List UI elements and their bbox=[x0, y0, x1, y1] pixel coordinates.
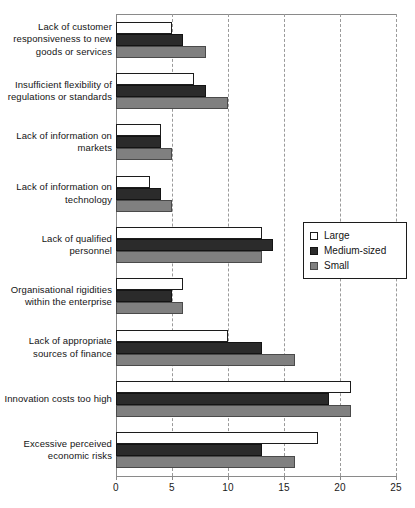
bar-medium bbox=[116, 393, 329, 405]
bar-large bbox=[116, 124, 161, 136]
bar-medium bbox=[116, 342, 262, 354]
tick-0 bbox=[116, 476, 117, 480]
legend-label: Large bbox=[324, 230, 350, 241]
bar-small bbox=[116, 302, 183, 314]
legend-swatch-small-icon bbox=[310, 262, 318, 270]
legend-item-large[interactable]: Large bbox=[310, 228, 400, 243]
legend-item-medium[interactable]: Medium-sized bbox=[310, 243, 400, 258]
bar-group bbox=[116, 176, 396, 212]
tick-15 bbox=[284, 476, 285, 480]
bar-large bbox=[116, 73, 194, 85]
category-label: Organisational rigidities within the ent… bbox=[2, 284, 112, 309]
legend-swatch-medium-icon bbox=[310, 247, 318, 255]
bar-large bbox=[116, 176, 150, 188]
bar-group bbox=[116, 330, 396, 366]
category-label: Insufficient flexibility of regulations … bbox=[2, 79, 112, 104]
tick-20 bbox=[340, 476, 341, 480]
category-label: Lack of appropriate sources of finance bbox=[2, 335, 112, 360]
bar-group bbox=[116, 381, 396, 417]
legend-swatch-large-icon bbox=[310, 232, 318, 240]
chart-legend[interactable]: LargeMedium-sizedSmall bbox=[303, 222, 407, 279]
bar-medium bbox=[116, 136, 161, 148]
x-tick-label: 25 bbox=[390, 482, 402, 493]
category-label: Lack of information on technology bbox=[2, 181, 112, 206]
bar-medium bbox=[116, 188, 161, 200]
bar-group bbox=[116, 22, 396, 58]
bar-medium bbox=[116, 85, 206, 97]
bar-small bbox=[116, 97, 228, 109]
x-tick-label: 15 bbox=[278, 482, 290, 493]
bar-large bbox=[116, 381, 351, 393]
bar-medium bbox=[116, 290, 172, 302]
bar-small bbox=[116, 405, 351, 417]
tick-25 bbox=[396, 476, 397, 480]
bar-medium bbox=[116, 444, 262, 456]
tick-5 bbox=[172, 476, 173, 480]
x-axis-line bbox=[116, 476, 397, 477]
bar-medium bbox=[116, 239, 273, 251]
bar-small bbox=[116, 200, 172, 212]
bar-large bbox=[116, 227, 262, 239]
bar-chart: 0510152025 Lack of customer responsivene… bbox=[0, 0, 415, 508]
bar-group bbox=[116, 432, 396, 468]
x-tick-label: 5 bbox=[169, 482, 175, 493]
category-label: Lack of information on markets bbox=[2, 130, 112, 155]
bar-small bbox=[116, 46, 206, 58]
category-label: Innovation costs too high bbox=[2, 393, 112, 406]
bar-large bbox=[116, 432, 318, 444]
legend-label: Small bbox=[324, 260, 349, 271]
bar-small bbox=[116, 354, 295, 366]
bar-group bbox=[116, 124, 396, 160]
bar-large bbox=[116, 330, 228, 342]
category-label: Lack of customer responsiveness to new g… bbox=[2, 21, 112, 59]
bar-large bbox=[116, 278, 183, 290]
category-label: Excessive perceived economic risks bbox=[2, 438, 112, 463]
bar-small bbox=[116, 251, 262, 263]
bar-medium bbox=[116, 34, 183, 46]
x-tick-label: 20 bbox=[334, 482, 346, 493]
x-tick-label: 0 bbox=[113, 482, 119, 493]
bar-small bbox=[116, 148, 172, 160]
bar-group bbox=[116, 278, 396, 314]
legend-item-small[interactable]: Small bbox=[310, 258, 400, 273]
bar-large bbox=[116, 22, 172, 34]
x-tick-label: 10 bbox=[222, 482, 234, 493]
tick-10 bbox=[228, 476, 229, 480]
category-label: Lack of qualified personnel bbox=[2, 233, 112, 258]
legend-label: Medium-sized bbox=[324, 245, 386, 256]
bar-small bbox=[116, 456, 295, 468]
bar-group bbox=[116, 73, 396, 109]
